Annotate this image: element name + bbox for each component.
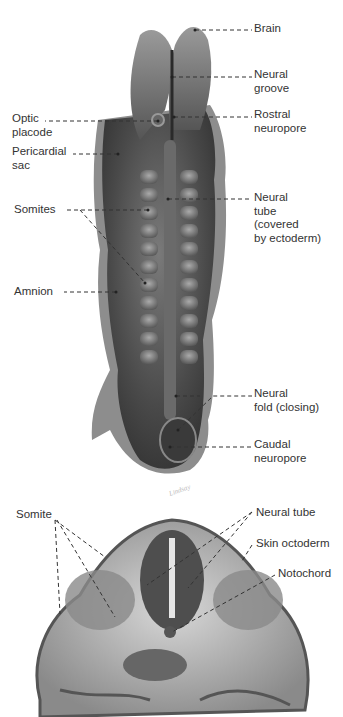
label-neural-tube-covered: Neural tube (covered by ectoderm) bbox=[254, 191, 321, 245]
label-pericardial-sac: Pericardial sac bbox=[12, 145, 66, 172]
label-somites: Somites bbox=[14, 203, 56, 217]
label-caudal-neuropore: Caudal neuropore bbox=[254, 438, 306, 465]
label-neural-groove: Neural groove bbox=[254, 68, 289, 95]
artist-signature: Lindsay bbox=[167, 482, 192, 498]
label-neural-fold-closing: Neural fold (closing) bbox=[254, 387, 319, 414]
label-notochord: Notochord bbox=[278, 567, 331, 581]
label-skin-ectoderm: Skin octoderm bbox=[256, 537, 330, 551]
label-brain: Brain bbox=[254, 22, 281, 36]
label-amnion: Amnion bbox=[14, 285, 53, 299]
label-neural-tube: Neural tube bbox=[256, 506, 315, 520]
embryo-dorsal-view bbox=[92, 27, 226, 474]
label-optic-placode: Optic placode bbox=[12, 112, 52, 139]
label-rostral-neuropore: Rostral neuropore bbox=[254, 108, 306, 135]
label-somite: Somite bbox=[16, 508, 52, 522]
